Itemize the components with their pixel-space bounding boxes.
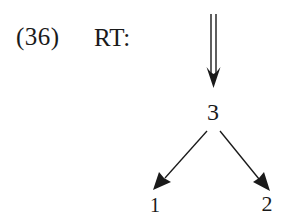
- edge-3-to-1-arrow-icon: [153, 131, 207, 190]
- double-down-arrow-icon: [207, 14, 221, 88]
- tree-node-2: 2: [257, 193, 277, 215]
- edge-3-to-2-arrow-icon: [220, 131, 270, 191]
- tree-diagram: [0, 0, 292, 216]
- tree-node-1: 1: [145, 195, 165, 215]
- tree-node-3: 3: [203, 100, 223, 124]
